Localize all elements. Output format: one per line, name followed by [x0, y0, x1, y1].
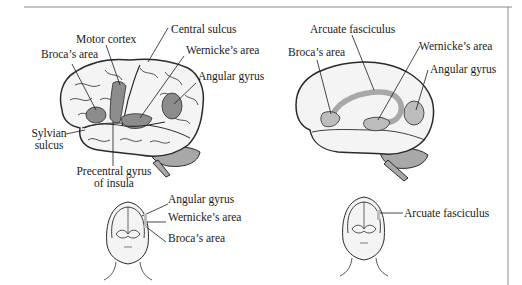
- label-brocas-area: Broca’s area: [41, 48, 98, 60]
- figure-canvas: Central sulcus Motor cortex Broca’s area…: [0, 0, 522, 285]
- label-sylvian-line2: sulcus: [29, 139, 69, 151]
- label-wernickes-area: Wernicke’s area: [186, 44, 259, 56]
- label-right-wernickes-area: Wernicke’s area: [419, 40, 492, 52]
- label-head-wernickes-area: Wernicke’s area: [168, 211, 241, 223]
- label-head-angular-gyrus: Angular gyrus: [168, 193, 234, 205]
- label-precentral-line1: Precentral gyrus: [74, 165, 154, 177]
- label-precentral-gyrus-insula: Precentral gyrus of insula: [74, 165, 154, 189]
- label-sylvian-sulcus: Sylvian sulcus: [29, 127, 69, 151]
- label-right-angular-gyrus: Angular gyrus: [430, 63, 496, 75]
- label-angular-gyrus: Angular gyrus: [198, 70, 264, 82]
- label-sylvian-line1: Sylvian: [29, 127, 69, 139]
- label-head-arcuate-fasciculus: Arcuate fasciculus: [404, 207, 489, 219]
- label-right-brocas-area: Broca’s area: [288, 46, 345, 58]
- label-arcuate-fasciculus: Arcuate fasciculus: [310, 23, 395, 35]
- label-head-brocas-area: Broca’s area: [168, 232, 225, 244]
- label-precentral-line2: of insula: [74, 177, 154, 189]
- label-motor-cortex: Motor cortex: [76, 33, 136, 45]
- label-central-sulcus: Central sulcus: [171, 23, 236, 35]
